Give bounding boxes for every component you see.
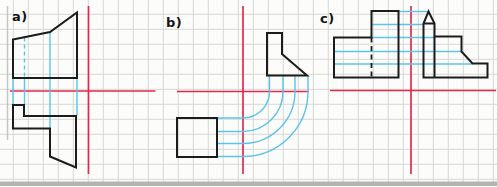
section-label-a: a): [12, 9, 28, 25]
lower-view-a: [13, 105, 76, 168]
side-view-b: [267, 33, 307, 76]
projection-arc-b: [217, 76, 283, 132]
worksheet: a) b) c): [0, 0, 497, 186]
technical-drawing-canvas: [0, 0, 497, 186]
front-view-square-b: [177, 118, 217, 157]
section-label-b: b): [166, 15, 182, 31]
section-label-c: c): [320, 11, 335, 27]
page-bottom-edge: [0, 182, 497, 187]
